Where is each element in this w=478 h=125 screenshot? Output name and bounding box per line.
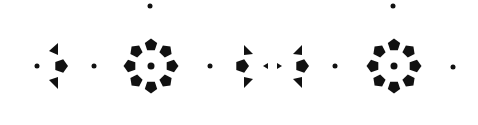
triangle-shape xyxy=(244,45,253,55)
dot-shape xyxy=(451,65,456,70)
pentagon-shape xyxy=(236,59,249,72)
pentagon-shape xyxy=(410,60,422,72)
pentagon-shape xyxy=(388,82,400,94)
dot-shape xyxy=(35,64,40,69)
pentagon-shape xyxy=(373,45,385,57)
dot-shape xyxy=(208,64,213,69)
triangle-shape xyxy=(277,63,282,69)
pentagon-shape xyxy=(373,74,385,86)
dot-group xyxy=(35,4,456,70)
triangle-shape xyxy=(244,77,253,88)
triangle-shape xyxy=(263,63,268,69)
pentagon-shape xyxy=(159,74,171,86)
pentagon-shape xyxy=(55,59,68,72)
dot-shape xyxy=(333,64,338,69)
triangle-shape xyxy=(49,77,58,89)
pentagon-shape xyxy=(388,39,400,51)
triangle-shape xyxy=(49,43,58,55)
pentagon-shape xyxy=(167,60,179,72)
pentagon-shape xyxy=(402,74,414,86)
dot-shape xyxy=(148,63,155,70)
dot-shape xyxy=(92,64,97,69)
pentagon-shape xyxy=(130,45,142,57)
triangle-shape xyxy=(293,77,302,88)
pentagon-shape xyxy=(296,59,309,72)
pentagon-shape xyxy=(367,60,379,72)
pentagon-shape xyxy=(130,74,142,86)
dot-shape xyxy=(391,4,396,9)
pentagon-rings xyxy=(124,39,422,94)
pentagon-shape xyxy=(402,45,414,57)
dot-shape xyxy=(391,63,398,70)
pentagon-shape xyxy=(145,39,157,51)
triangle-shape xyxy=(293,45,302,55)
dot-shape xyxy=(148,4,153,9)
ornament-pattern xyxy=(0,0,478,125)
pentagon-shape xyxy=(145,82,157,94)
pentagon-shape xyxy=(124,60,136,72)
pentagon-shape xyxy=(159,45,171,57)
